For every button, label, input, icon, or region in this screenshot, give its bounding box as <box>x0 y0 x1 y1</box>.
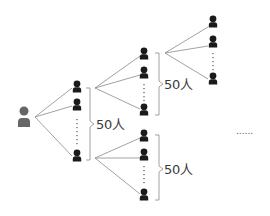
root-person-icon <box>18 107 30 128</box>
level1-count-label: 50人 <box>96 118 125 131</box>
level2b-count-label: 50人 <box>164 163 193 176</box>
level3-people <box>209 15 217 84</box>
tree-diagram <box>0 0 270 216</box>
level2b-people <box>140 129 148 200</box>
level2a-people <box>140 47 148 115</box>
level2a-count-label: 50人 <box>164 78 193 91</box>
level1-people <box>73 80 81 161</box>
continuation-ellipsis: ...... <box>236 127 253 136</box>
